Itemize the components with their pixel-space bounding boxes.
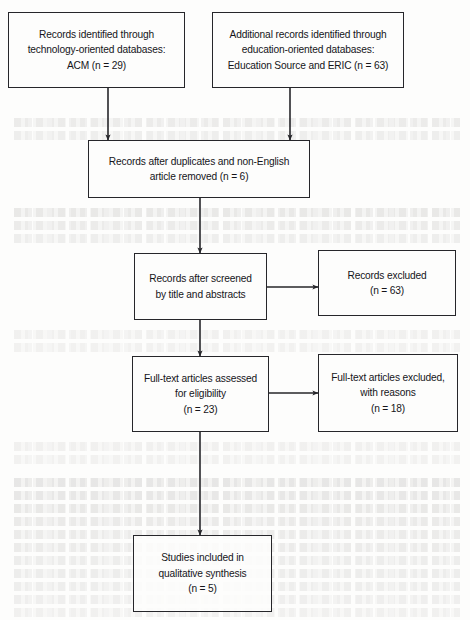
studies-included-box: Studies included inqualitative synthesis… (133, 535, 272, 612)
node-text-line: by title and abstracts (155, 287, 245, 303)
node-text-line: Full-text articles assessed (144, 371, 257, 387)
node-text-line: Records after screened (149, 271, 252, 287)
node-text-line: (n = 18) (371, 401, 405, 417)
node-text-line: Full-text articles excluded, (331, 370, 445, 386)
full-text-assessed-box: Full-text articles assessedfor eligibili… (132, 356, 269, 432)
node-text-line: article removed (n = 6) (150, 169, 249, 185)
node-text-line: with reasons (360, 385, 415, 401)
node-text-line: Studies included in (161, 550, 244, 566)
node-text-line: qualitative synthesis (158, 566, 246, 582)
node-text-line: Additional records identified through (230, 27, 387, 43)
node-text-line: Records excluded (347, 268, 426, 284)
full-text-excluded-box: Full-text articles excluded,with reasons… (318, 354, 458, 432)
node-text-line: technology-oriented databases: (28, 42, 166, 58)
records-identified-education-box: Additional records identified throughedu… (212, 12, 404, 88)
node-text-line: (n = 63) (370, 283, 404, 299)
node-text-line: (n = 23) (183, 402, 217, 418)
records-identified-technology-box: Records identified throughtechnology-ori… (8, 12, 185, 88)
node-text-line: education-oriented databases: (242, 42, 375, 58)
node-text-line: Records identified through (39, 27, 154, 43)
records-excluded-box: Records excluded(n = 63) (318, 250, 456, 316)
node-text-line: (n = 5) (188, 581, 217, 597)
node-text-line: for eligibility (175, 386, 226, 402)
node-text-line: ACM (n = 29) (67, 58, 126, 74)
node-text-line: Records after duplicates and non-English (109, 154, 289, 170)
prisma-flow-diagram-page: Records identified throughtechnology-ori… (0, 0, 470, 620)
node-text-line: Education Source and ERIC (n = 63) (228, 58, 389, 74)
records-after-screening-box: Records after screenedby title and abstr… (134, 253, 267, 320)
records-after-duplicates-box: Records after duplicates and non-English… (88, 140, 310, 198)
